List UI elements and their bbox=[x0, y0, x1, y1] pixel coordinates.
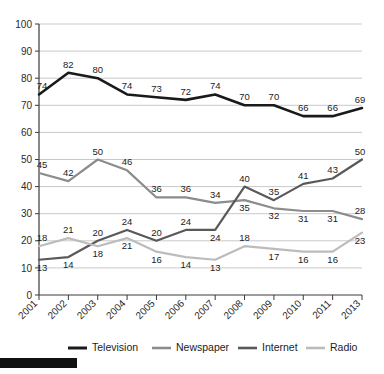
y-tick-label: 50 bbox=[21, 154, 33, 165]
data-label: 17 bbox=[269, 251, 280, 262]
x-tick-label: 2013 bbox=[339, 297, 363, 321]
series-line-television bbox=[39, 73, 362, 116]
data-label: 18 bbox=[37, 232, 48, 243]
y-tick-label: 60 bbox=[21, 127, 33, 138]
legend-label-radio: Radio bbox=[330, 341, 358, 353]
data-label: 66 bbox=[327, 102, 338, 113]
black-bar bbox=[0, 358, 77, 368]
data-label: 23 bbox=[355, 235, 366, 246]
data-label: 41 bbox=[298, 170, 309, 181]
x-tick-label: 2002 bbox=[45, 297, 69, 321]
data-label: 46 bbox=[122, 156, 133, 167]
data-label: 72 bbox=[181, 86, 192, 97]
data-label: 16 bbox=[298, 254, 309, 265]
y-tick-label: 70 bbox=[21, 100, 33, 111]
chart-canvas: 0102030405060708090100 20012002200320042… bbox=[0, 0, 384, 374]
data-label: 14 bbox=[63, 259, 74, 270]
x-tick-label: 2009 bbox=[251, 297, 275, 321]
x-tick-label: 2006 bbox=[163, 297, 187, 321]
y-tick-label: 40 bbox=[21, 181, 33, 192]
series-line-internet bbox=[39, 160, 362, 260]
footer-black-bar bbox=[0, 358, 77, 368]
data-label: 73 bbox=[151, 83, 162, 94]
data-label: 43 bbox=[327, 164, 338, 175]
x-tick-label: 2005 bbox=[133, 297, 157, 321]
chart-legend: TelevisionNewspaperInternetRadio bbox=[68, 341, 358, 353]
y-tick-label: 10 bbox=[21, 263, 33, 274]
series-lines-group bbox=[39, 73, 362, 260]
series-line-newspaper bbox=[39, 160, 362, 220]
data-label: 32 bbox=[269, 210, 280, 221]
data-label: 74 bbox=[37, 80, 48, 91]
x-tick-label: 2011 bbox=[310, 297, 333, 320]
y-tick-label: 100 bbox=[15, 19, 32, 30]
data-label: 20 bbox=[151, 227, 162, 238]
data-label: 82 bbox=[63, 59, 74, 70]
data-label: 40 bbox=[239, 173, 250, 184]
gridlines-group bbox=[35, 24, 362, 295]
data-label: 80 bbox=[92, 64, 103, 75]
data-label: 35 bbox=[269, 186, 280, 197]
data-label: 35 bbox=[239, 202, 250, 213]
data-label: 21 bbox=[122, 240, 133, 251]
data-label: 42 bbox=[63, 167, 74, 178]
legend-label-television: Television bbox=[92, 341, 138, 353]
data-label: 66 bbox=[298, 102, 309, 113]
x-tick-label: 2001 bbox=[16, 297, 40, 321]
x-tick-label: 2004 bbox=[104, 297, 128, 321]
data-label: 74 bbox=[122, 80, 133, 91]
y-axis-tick-labels: 0102030405060708090100 bbox=[15, 19, 32, 301]
data-label: 28 bbox=[355, 205, 366, 216]
data-label: 70 bbox=[269, 91, 280, 102]
data-label: 18 bbox=[92, 248, 103, 259]
x-axis-tick-labels: 2001200220032004200520062007200820092010… bbox=[16, 295, 363, 321]
line-chart: 0102030405060708090100 20012002200320042… bbox=[0, 0, 384, 374]
x-tick-label: 2007 bbox=[192, 297, 216, 321]
data-label: 69 bbox=[355, 94, 366, 105]
data-label: 21 bbox=[63, 224, 74, 235]
data-label: 74 bbox=[210, 80, 221, 91]
y-tick-label: 80 bbox=[21, 73, 33, 84]
y-tick-label: 90 bbox=[21, 46, 33, 57]
data-label: 45 bbox=[37, 159, 48, 170]
data-label: 50 bbox=[92, 146, 103, 157]
data-label: 24 bbox=[210, 232, 221, 243]
data-label: 13 bbox=[210, 262, 221, 273]
data-label: 24 bbox=[181, 216, 192, 227]
data-label: 18 bbox=[239, 232, 250, 243]
data-label: 36 bbox=[181, 183, 192, 194]
data-label: 24 bbox=[122, 216, 133, 227]
legend-label-newspaper: Newspaper bbox=[176, 341, 230, 353]
y-tick-label: 30 bbox=[21, 208, 33, 219]
data-label: 31 bbox=[298, 213, 309, 224]
data-label: 31 bbox=[327, 213, 338, 224]
x-tick-label: 2010 bbox=[280, 297, 304, 321]
data-label: 50 bbox=[355, 146, 366, 157]
data-label: 16 bbox=[327, 254, 338, 265]
x-tick-label: 2003 bbox=[75, 297, 99, 321]
data-label: 20 bbox=[92, 227, 103, 238]
data-label: 36 bbox=[151, 183, 162, 194]
data-label: 13 bbox=[37, 262, 48, 273]
y-tick-label: 20 bbox=[21, 235, 33, 246]
legend-label-internet: Internet bbox=[262, 341, 298, 353]
data-label: 14 bbox=[181, 259, 192, 270]
data-label: 70 bbox=[239, 91, 250, 102]
data-label: 34 bbox=[210, 189, 221, 200]
data-label: 16 bbox=[151, 254, 162, 265]
x-tick-label: 2008 bbox=[221, 297, 245, 321]
